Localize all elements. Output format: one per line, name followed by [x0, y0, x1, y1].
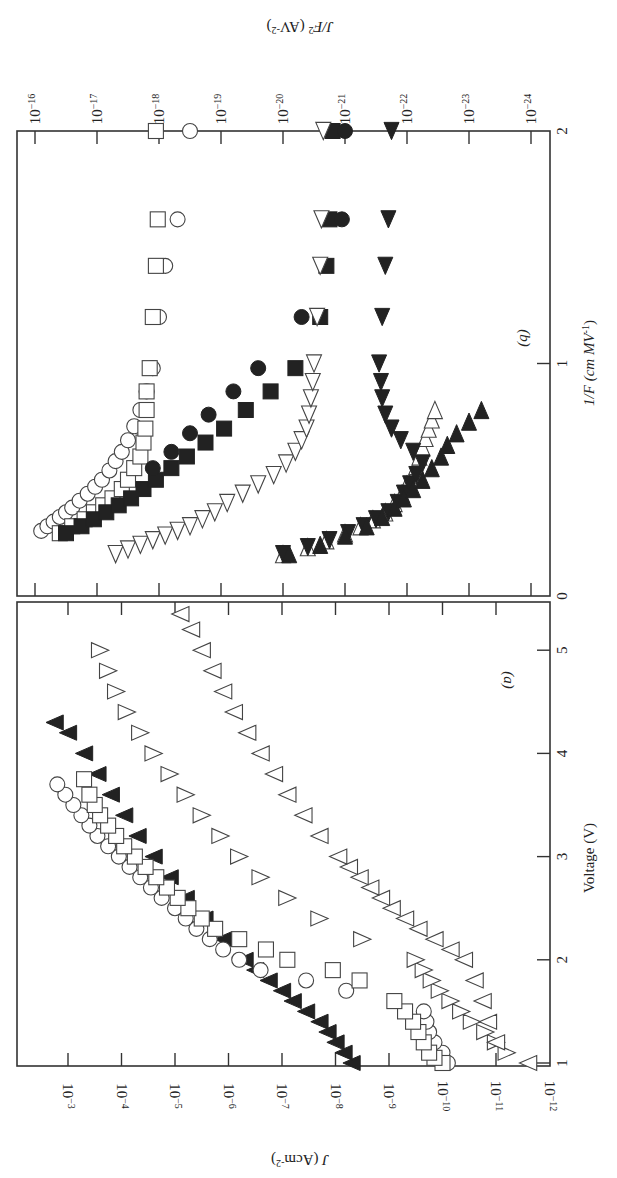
data-point-square	[59, 526, 74, 541]
data-point-triangle	[265, 767, 282, 782]
y-tick-label: 10−19	[212, 94, 230, 125]
y-tick-label: 10−21	[336, 94, 354, 125]
series-filled-circle	[145, 124, 352, 476]
panel-a-label: (a)	[500, 671, 517, 689]
data-point-triangle	[220, 494, 235, 511]
data-point-triangle	[145, 532, 160, 549]
data-point-circle	[232, 952, 247, 967]
y-tick-label: 10−9	[381, 1083, 399, 1109]
panel-a-data-points	[46, 607, 537, 1071]
data-point-circle	[251, 361, 266, 376]
y-tick-label: 10−17	[88, 94, 106, 125]
data-point-circle	[334, 212, 349, 227]
data-point-circle	[226, 384, 241, 399]
data-point-circle	[253, 963, 268, 978]
data-point-triangle	[252, 746, 269, 761]
panel-b-label: (b)	[516, 329, 533, 347]
data-point-circle	[339, 983, 354, 998]
x-tick-label: 4	[554, 749, 570, 757]
panel-a-plot: 10−310−410−510−610−710−810−910−1010−1110…	[17, 602, 598, 1170]
data-point-triangle	[311, 911, 328, 926]
data-point-triangle	[279, 787, 296, 802]
data-point-triangle	[474, 401, 489, 418]
data-point-circle	[145, 461, 160, 476]
data-point-square	[198, 435, 213, 450]
data-point-triangle	[177, 787, 194, 802]
data-point-triangle	[378, 257, 393, 274]
data-point-triangle	[133, 536, 148, 553]
data-point-triangle	[239, 725, 256, 740]
data-point-triangle	[427, 401, 442, 418]
data-point-square	[145, 310, 160, 325]
y-tick-label: 10−10	[435, 1081, 453, 1112]
figure: 10−1610−1710−1810−1910−2010−2110−2210−23…	[0, 0, 617, 1178]
data-point-triangle	[426, 932, 443, 947]
data-point-circle	[338, 124, 353, 139]
y-tick-label: 10−4	[114, 1083, 132, 1109]
data-point-square	[208, 921, 223, 936]
y-tick-label: 10−24	[522, 94, 540, 125]
data-point-circle	[183, 426, 198, 441]
data-point-square	[148, 124, 163, 139]
y-tick-label: 10−6	[221, 1083, 239, 1109]
data-point-square	[133, 449, 148, 464]
data-point-triangle	[354, 932, 371, 947]
data-point-square	[263, 384, 278, 399]
x-tick-label: 5	[554, 646, 570, 654]
data-point-triangle	[158, 527, 173, 544]
data-point-circle	[164, 444, 179, 459]
data-point-triangle	[132, 725, 149, 740]
data-point-triangle	[108, 546, 123, 563]
data-point-triangle	[161, 767, 178, 782]
y-tick-label: 10−7	[274, 1083, 292, 1109]
y-tick-label: 10−18	[150, 94, 168, 125]
x-tick-label: 1	[554, 1059, 570, 1067]
data-point-triangle	[330, 849, 347, 864]
data-point-triangle	[462, 413, 477, 430]
y-tick-label: 10−3	[60, 1083, 78, 1109]
panel-a-y-unit: (Acm	[284, 1151, 318, 1168]
data-point-square	[77, 772, 92, 787]
data-point-triangle	[466, 973, 483, 988]
x-tick-label: 0	[554, 592, 570, 600]
data-point-square	[288, 361, 303, 376]
data-point-triangle	[307, 355, 322, 372]
data-point-triangle	[252, 870, 269, 885]
series-open-down-triangle	[91, 643, 515, 1060]
data-point-triangle	[204, 663, 221, 678]
panel-b-y-axis-title: J/F2 (AV-2)	[267, 18, 334, 37]
panel-a-y-axis-title: J (Acm-2)	[271, 1151, 329, 1170]
y-tick-label: 10−16	[26, 94, 44, 125]
x-tick-label: 2	[554, 956, 570, 964]
data-point-circle	[121, 433, 136, 448]
y-tick-label: 10−22	[398, 94, 416, 125]
data-point-triangle	[372, 355, 387, 372]
data-point-triangle	[193, 643, 210, 658]
data-point-triangle	[108, 684, 125, 699]
data-point-triangle	[121, 541, 136, 558]
series-filled-up-triangle	[46, 715, 360, 1071]
data-point-triangle	[251, 476, 266, 493]
data-point-triangle	[295, 808, 312, 823]
y-tick-label: 10−12	[542, 1081, 560, 1112]
series-open-up-triangle	[172, 607, 537, 1071]
data-point-triangle	[46, 715, 63, 730]
data-point-circle	[216, 942, 231, 957]
data-point-square	[232, 932, 247, 947]
data-point-triangle	[266, 466, 281, 483]
data-point-triangle	[215, 684, 232, 699]
data-point-square	[139, 403, 154, 418]
data-point-triangle	[279, 455, 294, 472]
data-point-triangle	[225, 705, 242, 720]
panel-a-x-axis-title: Voltage (V)	[581, 823, 598, 893]
data-point-triangle	[212, 828, 229, 843]
data-point-triangle	[373, 373, 388, 390]
series-open-circle	[34, 124, 198, 539]
data-point-triangle	[75, 746, 92, 761]
x-tick-label: 2	[554, 127, 570, 135]
data-point-square	[387, 994, 402, 1009]
data-point-triangle	[449, 425, 464, 442]
data-point-square	[217, 421, 232, 436]
data-point-square	[138, 421, 153, 436]
data-point-square	[136, 435, 151, 450]
